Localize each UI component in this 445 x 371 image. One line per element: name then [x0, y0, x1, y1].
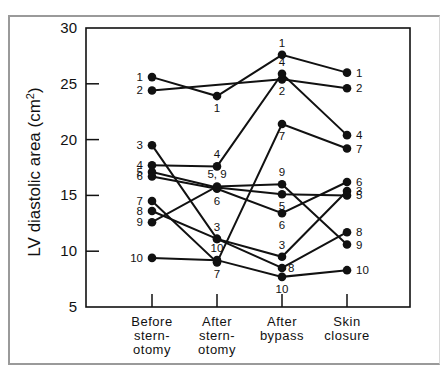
line-chart: 51015202530 Beforestern-otomyAfterstern-…: [0, 0, 445, 371]
point-label: 7: [279, 130, 285, 142]
x-tick-label: After: [267, 314, 297, 329]
series-line-7: [152, 124, 347, 262]
point-label: 5: [279, 200, 285, 212]
data-point: [343, 266, 352, 275]
point-label: 8: [356, 226, 362, 238]
point-label: 3: [279, 239, 285, 251]
data-point: [278, 120, 287, 129]
y-tick-label: 10: [60, 242, 77, 259]
data-point: [343, 240, 352, 249]
x-tick-label: stern-: [134, 328, 170, 343]
point-label: 1: [279, 37, 285, 49]
point-label: 10: [211, 242, 224, 254]
point-label: 9: [279, 166, 285, 178]
data-point: [148, 86, 157, 95]
data-point: [213, 182, 222, 191]
x-tick-label: otomy: [133, 342, 171, 357]
data-point: [148, 218, 157, 227]
y-tick-label: 30: [60, 19, 77, 36]
data-point: [148, 207, 157, 216]
point-label: 9: [137, 216, 143, 228]
data-point: [343, 191, 352, 200]
x-tick-label: closure: [324, 328, 369, 343]
point-label: 3: [137, 139, 143, 151]
x-tick-label: stern-: [199, 328, 235, 343]
x-tick-label: otomy: [198, 342, 236, 357]
data-point: [343, 178, 352, 187]
point-label: 7: [356, 143, 362, 155]
point-label: 1: [356, 67, 362, 79]
series-line-1: [152, 55, 347, 96]
y-tick-label: 5: [69, 298, 77, 315]
point-label: 1: [137, 71, 143, 83]
point-label: 8: [288, 262, 294, 274]
point-label: 3: [214, 221, 220, 233]
data-point: [278, 252, 287, 261]
point-label: 10: [130, 252, 143, 264]
data-point: [148, 73, 157, 82]
data-point: [343, 131, 352, 140]
data-point: [278, 264, 287, 273]
x-tick-label: bypass: [260, 328, 304, 343]
data-point: [278, 69, 287, 78]
point-label: 2: [356, 82, 362, 94]
x-tick-label: Skin: [333, 314, 360, 329]
point-label: 5, 9: [207, 168, 226, 180]
y-tick-label: 25: [60, 75, 77, 92]
point-label: 6: [214, 195, 220, 207]
point-label: 9: [356, 239, 362, 251]
data-point: [343, 68, 352, 77]
data-point: [278, 180, 287, 189]
series-line-10: [152, 258, 347, 277]
point-label: 4: [279, 56, 286, 68]
y-axis-title: LV diastolic area (cm2): [24, 87, 44, 256]
data-point: [213, 256, 222, 265]
point-label: 10: [356, 264, 369, 276]
data-point: [278, 190, 287, 199]
point-label: 6: [137, 170, 143, 182]
y-tick-label: 20: [60, 131, 77, 148]
y-axis: 51015202530: [60, 19, 99, 315]
data-point: [148, 141, 157, 150]
point-label: 7: [214, 268, 220, 280]
data-point: [148, 172, 157, 181]
series-lines: [152, 55, 347, 277]
data-point: [278, 273, 287, 282]
x-tick-label: After: [202, 314, 232, 329]
data-point: [148, 254, 157, 263]
data-point: [148, 197, 157, 206]
data-point: [213, 92, 222, 101]
point-label: 6: [356, 176, 362, 188]
point-label: 4: [356, 129, 363, 141]
data-point: [343, 144, 352, 153]
data-point: [343, 84, 352, 93]
point-label: 4: [214, 148, 221, 160]
point-label: 6: [279, 219, 285, 231]
point-label: 5: [356, 189, 362, 201]
point-label: 1: [214, 102, 220, 114]
point-label: 2: [137, 84, 143, 96]
data-point: [343, 228, 352, 237]
x-axis: Beforestern-otomyAfterstern-otomyAfterby…: [131, 294, 369, 357]
point-label: 10: [276, 283, 289, 295]
point-label: 2: [279, 85, 285, 97]
x-tick-label: Before: [131, 314, 172, 329]
y-tick-label: 15: [60, 186, 77, 203]
